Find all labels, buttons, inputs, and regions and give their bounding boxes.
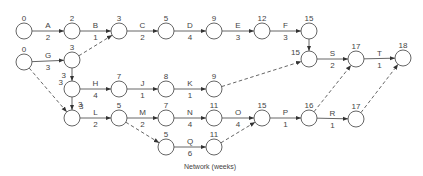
event-node xyxy=(301,110,317,126)
event-node xyxy=(206,23,222,39)
network-diagram: A2B1C2D4E3F3G33H4J1K13L2M2N4O4P1R1Q6S2T1… xyxy=(0,0,423,176)
activity-duration-label: 3 xyxy=(46,63,51,72)
activity-name-label: K xyxy=(187,79,193,88)
event-node xyxy=(348,111,364,127)
activity-duration-label: 6 xyxy=(188,149,193,158)
activity-name-label: L xyxy=(93,108,98,117)
event-node xyxy=(395,50,411,66)
event-node xyxy=(16,23,32,39)
event-nodes: 02359121503151718378935711151617511 xyxy=(16,14,411,155)
activity-name-label: P xyxy=(283,108,288,117)
activity-r-arrow xyxy=(317,118,348,119)
event-node xyxy=(16,54,32,70)
activity-duration-label: 1 xyxy=(377,61,382,70)
node-time-label: 9 xyxy=(212,14,217,23)
event-node xyxy=(158,139,174,155)
event-node xyxy=(111,23,127,39)
node-time-label: 11 xyxy=(210,130,219,139)
activity-duration-label: 3 xyxy=(236,33,241,42)
node-time-label: 8 xyxy=(164,72,169,81)
event-node xyxy=(158,23,174,39)
activity-name-label: R xyxy=(330,109,336,118)
activity-name-label: G xyxy=(45,51,51,60)
event-node xyxy=(158,81,174,97)
dummy-activity-arrow xyxy=(314,65,351,111)
activity-name-label: A xyxy=(45,21,51,30)
node-time-label: 12 xyxy=(258,14,267,23)
event-node xyxy=(348,51,364,67)
activity-t-arrow xyxy=(364,58,395,59)
event-node xyxy=(158,110,174,126)
node-time-label: 5 xyxy=(164,130,169,139)
event-node xyxy=(111,81,127,97)
event-node xyxy=(64,52,80,68)
diagram-caption: Network (weeks) xyxy=(184,163,236,171)
node-time-label: 17 xyxy=(352,42,361,51)
node-time-label: 15 xyxy=(305,14,314,23)
node-time-label: 18 xyxy=(399,41,408,50)
activity-name-label: O xyxy=(235,108,241,117)
event-node xyxy=(206,110,222,126)
activity-name-label: H xyxy=(93,79,99,88)
event-node xyxy=(64,81,80,97)
node-time-label: 3 xyxy=(79,102,84,111)
dummy-activity-arrow xyxy=(222,61,302,86)
node-time-label: 3 xyxy=(117,14,122,23)
activity-name-label: F xyxy=(283,21,288,30)
activity-name-label: C xyxy=(140,21,146,30)
event-node xyxy=(206,139,222,155)
activity-duration-label: 4 xyxy=(93,91,98,100)
event-node xyxy=(254,110,270,126)
node-time-label: 5 xyxy=(164,14,169,23)
event-node xyxy=(111,110,127,126)
network-svg: A2B1C2D4E3F3G33H4J1K13L2M2N4O4P1R1Q6S2T1… xyxy=(0,0,423,176)
activity-duration-label: 2 xyxy=(46,33,51,42)
node-time-label: 16 xyxy=(305,101,314,110)
activity-duration-label: 1 xyxy=(330,121,335,130)
node-time-label: 9 xyxy=(212,72,217,81)
event-node xyxy=(301,23,317,39)
node-time-label: 5 xyxy=(117,101,122,110)
activity-g-arrow xyxy=(32,60,64,61)
node-time-label: 11 xyxy=(210,101,219,110)
activity-name-label: J xyxy=(141,79,145,88)
activity-name-label: N xyxy=(187,108,193,117)
activity-duration-label: 3 xyxy=(283,33,288,42)
node-time-label: 15 xyxy=(258,101,267,110)
activity-name-label: T xyxy=(377,49,382,58)
activity-duration-label: 1 xyxy=(93,33,98,42)
event-node xyxy=(64,110,80,126)
node-time-label: 7 xyxy=(164,101,169,110)
node-time-label: 0 xyxy=(22,45,27,54)
event-node xyxy=(301,51,317,67)
activity-duration-label: 2 xyxy=(140,120,145,129)
node-time-label: 7 xyxy=(117,72,122,81)
activity-name-label: D xyxy=(187,21,193,30)
activity-name-label: E xyxy=(235,21,240,30)
node-time-label: 15 xyxy=(291,48,300,57)
activity-duration-label: 4 xyxy=(188,33,193,42)
activity-duration-label: 1 xyxy=(140,91,145,100)
activity-name-label: S xyxy=(330,49,335,58)
activity-name-label: Q xyxy=(187,137,193,146)
activity-duration-label: 2 xyxy=(140,33,145,42)
activity-duration-label: 2 xyxy=(93,120,98,129)
dummy-activity-arrow xyxy=(361,64,398,112)
event-node xyxy=(64,23,80,39)
activity-duration-label: 1 xyxy=(283,120,288,129)
node-time-label: 0 xyxy=(22,14,27,23)
event-node xyxy=(206,81,222,97)
activity-name-label: M xyxy=(139,108,146,117)
activity-duration-label: 4 xyxy=(236,120,241,129)
activity-duration-label: 2 xyxy=(330,61,335,70)
activity-name-label: B xyxy=(93,21,98,30)
event-node xyxy=(254,23,270,39)
node-time-label: 3 xyxy=(70,43,75,52)
node-time-label: 3 xyxy=(59,78,64,87)
node-time-label: 17 xyxy=(352,102,361,111)
node-time-label: 2 xyxy=(70,14,75,23)
activity-duration-label: 4 xyxy=(188,120,193,129)
activity-duration-label: 1 xyxy=(188,91,193,100)
